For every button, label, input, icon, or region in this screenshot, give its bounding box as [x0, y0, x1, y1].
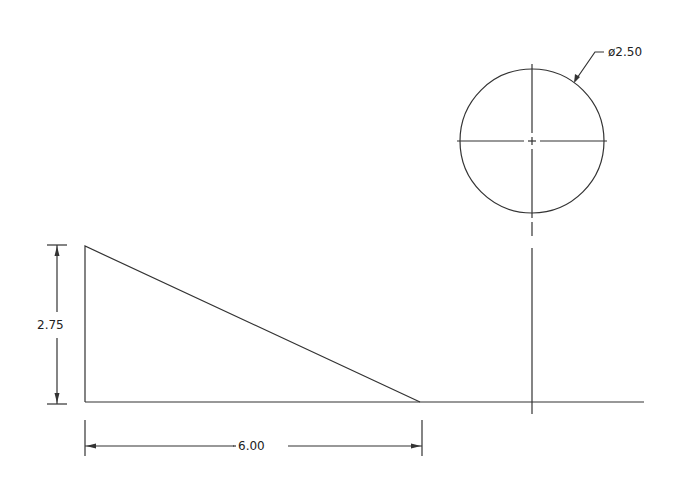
- width-dimension-label: 6.00: [236, 439, 267, 453]
- center-lines: [457, 64, 607, 414]
- diameter-dimension-label: ø2.50: [606, 45, 644, 59]
- height-dimension-label: 2.75: [35, 318, 66, 332]
- triangle-shape: [85, 246, 420, 402]
- cad-drawing: [0, 0, 692, 490]
- drawing-canvas: 2.75 6.00 ø2.50: [0, 0, 692, 490]
